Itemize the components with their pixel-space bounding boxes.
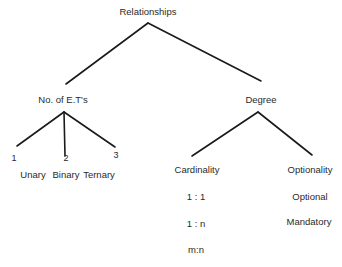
- cardinality-one-to-many: 1 : n: [187, 219, 206, 229]
- node-cardinality: Cardinality: [175, 165, 220, 175]
- edge-ets-to-unary: [17, 112, 64, 146]
- edge-degree-to-optionality: [258, 112, 312, 155]
- edge-root-to-degree: [148, 23, 261, 81]
- edge-ets-to-binary: [64, 112, 65, 156]
- cardinality-one-to-one: 1 : 1: [187, 192, 206, 202]
- cardinality-many-to-many: m:n: [188, 245, 204, 255]
- edge-ets-to-ternary: [64, 112, 115, 147]
- node-unary: Unary: [20, 170, 45, 180]
- node-degree: Degree: [245, 95, 276, 105]
- node-relationships: Relationships: [119, 7, 176, 17]
- edge-degree-to-cardinality: [192, 112, 258, 156]
- optionality-mandatory: Mandatory: [287, 217, 332, 227]
- number-2: 2: [63, 154, 68, 163]
- node-ternary: Ternary: [83, 170, 115, 180]
- edge-root-to-no-of-ets: [66, 23, 148, 84]
- number-1: 1: [11, 154, 16, 163]
- optionality-optional: Optional: [292, 192, 327, 202]
- node-optionality: Optionality: [288, 165, 333, 175]
- node-binary: Binary: [53, 170, 80, 180]
- number-3: 3: [113, 151, 118, 160]
- node-no-of-ets: No. of E.T's: [38, 95, 87, 105]
